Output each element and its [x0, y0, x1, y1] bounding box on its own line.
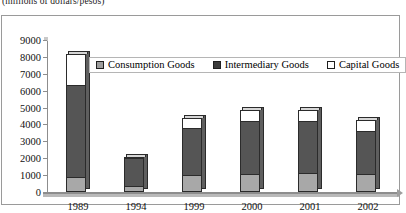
- x-axis-tick-label: 2000: [242, 201, 263, 213]
- bar-top-face: [184, 115, 204, 118]
- y-axis-line: [47, 40, 48, 192]
- x-axis-tick-label: 2001: [300, 201, 321, 213]
- y-axis-tick-label: 2000: [20, 153, 41, 164]
- y-axis-tick-label: 4000: [20, 119, 41, 130]
- y-tick-mark: [43, 108, 47, 109]
- x-axis-tick-label: 1989: [68, 201, 89, 213]
- bar-side-face: [144, 154, 148, 189]
- legend-label: Intermediary Goods: [225, 59, 309, 71]
- legend-entry[interactable]: Capital Goods: [327, 59, 399, 71]
- bar-segment-intermediary[interactable]: [182, 128, 202, 175]
- y-tick-mark: [43, 91, 47, 92]
- y-tick-mark: [43, 124, 47, 125]
- y-axis-tick-label: 9000: [20, 35, 41, 46]
- bar-top-face: [68, 51, 88, 54]
- bar-top-face: [242, 107, 262, 110]
- legend-label: Capital Goods: [339, 59, 399, 71]
- bar-segment-capital[interactable]: [298, 110, 318, 121]
- y-axis-tick-label: 8000: [20, 51, 41, 62]
- bar-segment-consumption[interactable]: [240, 174, 260, 192]
- bar-segment-capital[interactable]: [240, 110, 260, 121]
- y-axis-tick-label: 1000: [20, 170, 41, 181]
- x-axis-tick-label: 1994: [126, 201, 147, 213]
- bar-top-face: [126, 154, 146, 157]
- chart-frame: 0100020003000400050006000700080009000 19…: [1, 15, 400, 205]
- y-axis-tick-label: 7000: [20, 68, 41, 79]
- x-axis-tick-label: 2002: [358, 201, 379, 213]
- bar-top-face: [300, 107, 320, 110]
- bar-top-face: [358, 117, 378, 120]
- bar-segment-consumption[interactable]: [66, 177, 86, 192]
- y-tick-mark: [43, 40, 47, 41]
- legend-swatch-icon: [213, 61, 221, 69]
- bar-segment-consumption[interactable]: [298, 173, 318, 192]
- bar-segment-capital[interactable]: [182, 118, 202, 128]
- figure-caption: (millions of dollars/pesos): [2, 0, 104, 6]
- bar-segment-intermediary[interactable]: [298, 121, 318, 173]
- y-tick-mark: [43, 57, 47, 58]
- legend-swatch-icon: [96, 61, 104, 69]
- y-axis-tick-label: 6000: [20, 85, 41, 96]
- bar-segment-consumption[interactable]: [182, 175, 202, 192]
- bar-segment-intermediary[interactable]: [124, 158, 144, 186]
- y-axis-tick-label: 0: [36, 187, 41, 198]
- y-tick-mark: [43, 141, 47, 142]
- y-tick-mark: [43, 175, 47, 176]
- legend-entry[interactable]: Consumption Goods: [96, 59, 195, 71]
- chart-legend: Consumption GoodsIntermediary GoodsCapit…: [89, 57, 406, 73]
- y-tick-mark: [43, 74, 47, 75]
- bar-segment-capital[interactable]: [356, 120, 376, 131]
- legend-entry[interactable]: Intermediary Goods: [213, 59, 309, 71]
- legend-label: Consumption Goods: [108, 59, 195, 71]
- y-tick-mark: [43, 158, 47, 159]
- bar-segment-consumption[interactable]: [356, 174, 376, 192]
- bar-segment-intermediary[interactable]: [240, 121, 260, 174]
- y-axis-tick-label: 3000: [20, 136, 41, 147]
- bar-side-face: [202, 115, 206, 189]
- bar-side-face: [318, 107, 322, 189]
- x-axis-arrow-icon: [397, 189, 403, 197]
- x-axis-tick-label: 1999: [184, 201, 205, 213]
- y-axis-tick-label: 5000: [20, 102, 41, 113]
- x-axis-front-face: [43, 194, 399, 197]
- bar-side-face: [376, 117, 380, 189]
- bar-group[interactable]: [66, 40, 86, 192]
- bar-side-face: [260, 107, 264, 189]
- bar-segment-intermediary[interactable]: [356, 131, 376, 174]
- bar-segment-intermediary[interactable]: [66, 85, 86, 177]
- bar-segment-capital[interactable]: [124, 157, 144, 159]
- legend-swatch-icon: [327, 61, 335, 69]
- bar-segment-capital[interactable]: [66, 54, 86, 85]
